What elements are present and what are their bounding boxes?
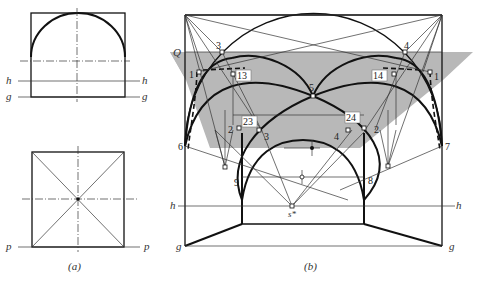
plane-q-label: Q <box>173 46 181 58</box>
point-1-left: 1 <box>189 69 194 80</box>
point-14: 14 <box>373 70 383 81</box>
g-label-right: g <box>142 90 148 102</box>
point-2-right: 2 <box>374 124 379 135</box>
g-label-b-left: g <box>176 240 182 252</box>
elevation-arch <box>31 13 125 57</box>
caption-b: (b) <box>304 260 317 273</box>
plan-center-point <box>76 197 80 201</box>
floor-right <box>364 224 442 246</box>
measuring-point-2 <box>300 175 304 179</box>
figure-a-plan: p p (a) <box>5 146 150 273</box>
point-4-low: 4 <box>334 131 339 142</box>
point-13: 13 <box>237 70 247 81</box>
point-4-top: 4 <box>404 40 409 51</box>
h-label-left: h <box>6 74 12 86</box>
figure-a-elevation: h h g g <box>6 8 148 102</box>
point-s-star: s* <box>288 209 297 219</box>
point-3-top: 3 <box>216 40 221 51</box>
point-24: 24 <box>346 112 356 123</box>
g-label-left: g <box>6 90 12 102</box>
figure-b: Q 1 1 3 4 13 14 5 23 24 2 2 3 4 6 7 8 9 … <box>170 13 473 273</box>
point-3-low: 3 <box>264 131 269 142</box>
caption-a: (a) <box>68 260 81 273</box>
h-label-right: h <box>142 74 148 86</box>
back-arch <box>242 140 364 200</box>
point-7: 7 <box>445 141 450 152</box>
point-5: 5 <box>309 82 314 93</box>
h-label-b-right: h <box>456 199 462 211</box>
point-2-left: 2 <box>228 124 233 135</box>
point-23: 23 <box>243 116 253 127</box>
groin-vault-perspective-diagram: h h g g p p (a) <box>0 0 481 281</box>
measuring-point-1 <box>310 146 314 150</box>
g-label-b-right: g <box>449 240 455 252</box>
p-label-left: p <box>5 240 12 252</box>
p-label-right: p <box>143 240 150 252</box>
point-9: 9 <box>234 177 239 188</box>
floor-left <box>185 224 242 246</box>
point-6: 6 <box>178 141 183 152</box>
h-label-b-left: h <box>170 199 176 211</box>
point-8: 8 <box>368 175 373 186</box>
point-1-right: 1 <box>434 71 439 82</box>
